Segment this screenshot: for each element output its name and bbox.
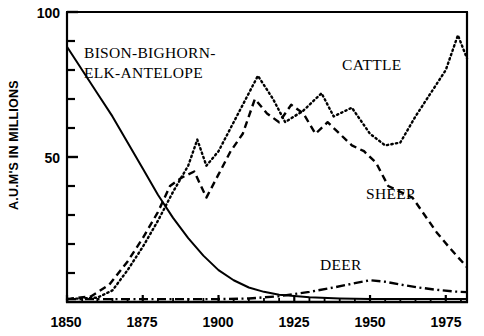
- sheep-label: SHEEP: [366, 185, 415, 202]
- y-tick-label-100: 100: [37, 5, 61, 21]
- y-tick-label-50: 50: [44, 150, 60, 166]
- cattle-label: CATTLE: [342, 56, 402, 73]
- x-tick-label-1975: 1975: [430, 314, 461, 330]
- chart-figure: A.U.M'S IN MILLIONS 10050 18501875190019…: [0, 0, 484, 336]
- bison-label-line2: ELK-ANTELOPE: [84, 64, 203, 81]
- deer-label: DEER: [320, 256, 362, 273]
- x-tick-label-1850: 1850: [50, 314, 81, 330]
- series-line-deer: [67, 280, 467, 299]
- bison-label-line1: BISON-BIGHORN-: [84, 44, 216, 61]
- y-axis-tick-labels: 10050: [37, 5, 61, 166]
- x-tick-label-1875: 1875: [126, 314, 157, 330]
- x-tick-label-1950: 1950: [354, 314, 385, 330]
- x-tick-label-1925: 1925: [278, 314, 309, 330]
- x-tick-label-1900: 1900: [202, 314, 233, 330]
- chart-canvas: A.U.M'S IN MILLIONS 10050 18501875190019…: [0, 0, 484, 336]
- y-axis-title: A.U.M'S IN MILLIONS: [7, 80, 21, 210]
- x-axis-tick-labels: 185018751900192519501975: [50, 314, 461, 330]
- series-annotations: BISON-BIGHORN-ELK-ANTELOPECATTLESHEEPDEE…: [84, 44, 415, 273]
